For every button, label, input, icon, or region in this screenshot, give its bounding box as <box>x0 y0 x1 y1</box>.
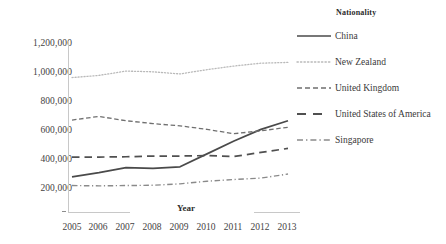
legend-swatch-dash-dot-icon <box>296 134 332 146</box>
legend-item-china[interactable]: China <box>296 23 444 49</box>
x-axis-title: Year <box>150 203 222 213</box>
legend-item-united-kingdom[interactable]: United Kingdom <box>296 75 444 101</box>
legend-swatch-dashed-icon <box>296 82 332 94</box>
series-line-new-zealand <box>72 62 288 77</box>
legend-item-label: Singapore <box>335 135 374 146</box>
legend-swatch-solid-icon <box>296 30 332 42</box>
legend-item-label: United States of America <box>335 109 431 120</box>
x-axis-tick-label: 2010 <box>193 222 219 232</box>
legend-title: Nationality <box>336 8 444 17</box>
x-axis-tick-label: 2006 <box>85 222 111 232</box>
line-chart: 1,200,000 1,000,000 800,000 600,000 400,… <box>0 0 446 244</box>
x-axis-tick-label: 2011 <box>220 222 246 232</box>
legend-item-united-states-of-america[interactable]: United States of America <box>296 101 444 127</box>
x-axis-tick-label: 2009 <box>166 222 192 232</box>
legend-item-label: United Kingdom <box>335 83 399 94</box>
x-axis-tick-label: 2012 <box>247 222 273 232</box>
series-line-china <box>72 121 288 177</box>
series-line-united-kingdom <box>72 116 288 133</box>
legend-item-label: China <box>335 31 358 42</box>
series-line-singapore <box>72 174 288 186</box>
x-axis-tick-label: 2008 <box>139 222 165 232</box>
x-axis-tick-label: 2007 <box>112 222 138 232</box>
legend-swatch-dotted-icon <box>296 56 332 68</box>
legend-swatch-long-dash-icon <box>296 108 332 120</box>
legend: Nationality China New Zealand United Kin… <box>296 8 444 153</box>
legend-item-label: New Zealand <box>335 57 386 68</box>
legend-item-singapore[interactable]: Singapore <box>296 127 444 153</box>
series-line-united-states-of-america <box>72 148 288 157</box>
legend-item-new-zealand[interactable]: New Zealand <box>296 49 444 75</box>
x-axis-tick-label: 2005 <box>59 222 85 232</box>
x-axis-tick-label: 2013 <box>274 222 300 232</box>
